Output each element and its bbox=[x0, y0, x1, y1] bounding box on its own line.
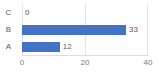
category-label-a: A bbox=[0, 38, 17, 55]
bar-value-c: 0 bbox=[22, 4, 29, 21]
x-tick-label-40: 40 bbox=[144, 58, 153, 67]
bar-value-b: 33 bbox=[126, 21, 138, 38]
bar-row-c: 0 bbox=[22, 4, 148, 21]
bar-b[interactable] bbox=[22, 25, 126, 35]
plot-area: 0 33 12 bbox=[22, 4, 148, 55]
bar-a[interactable] bbox=[22, 42, 60, 52]
bar-track-b: 33 bbox=[22, 21, 148, 38]
bar-row-b: 33 bbox=[22, 21, 148, 38]
x-axis-line bbox=[22, 55, 148, 56]
bar-chart: 0 33 12 C B A 0 20 40 bbox=[0, 0, 162, 78]
category-label-b: B bbox=[0, 21, 17, 38]
bar-track-c: 0 bbox=[22, 4, 148, 21]
category-label-c: C bbox=[0, 4, 17, 21]
bar-track-a: 12 bbox=[22, 38, 148, 55]
bar-value-a: 12 bbox=[60, 38, 72, 55]
bar-row-a: 12 bbox=[22, 38, 148, 55]
x-tick-label-0: 0 bbox=[20, 58, 24, 67]
x-tick-label-20: 20 bbox=[81, 58, 90, 67]
